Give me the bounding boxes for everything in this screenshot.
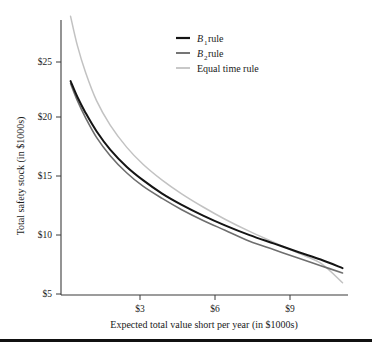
y-tick-label-15: $15 xyxy=(38,171,53,181)
chart-canvas: $5 $10 $15 $20 $25 $3 $6 $9 Expected tot… xyxy=(0,0,372,350)
y-tick-label-20: $20 xyxy=(38,112,53,122)
series-line-b1-rule xyxy=(71,81,343,268)
legend-label-b1-tail: rule xyxy=(208,33,224,44)
chart-legend: B 1 rule B 2 rule Equal time rule xyxy=(176,33,259,74)
bottom-divider-rule xyxy=(0,339,372,342)
legend-label-b1-main: B xyxy=(197,33,203,44)
x-axis-title: Expected total value short per year (in … xyxy=(110,319,297,331)
legend-label-b2-tail: rule xyxy=(208,48,224,59)
x-tick-label-3: $3 xyxy=(135,304,145,314)
y-tick-label-5: $5 xyxy=(43,289,53,299)
y-tick-label-25: $25 xyxy=(38,57,53,67)
chart-figure: $5 $10 $15 $20 $25 $3 $6 $9 Expected tot… xyxy=(0,0,372,350)
x-tick-label-9: $9 xyxy=(285,304,295,314)
x-tick-label-6: $6 xyxy=(210,304,220,314)
y-axis-title: Total safety stock (in $1000s) xyxy=(15,117,27,236)
y-tick-label-10: $10 xyxy=(38,230,53,240)
series-line-b2-rule xyxy=(71,84,343,273)
legend-label-b2-main: B xyxy=(197,48,203,59)
legend-label-equal-time-rule: Equal time rule xyxy=(197,63,259,74)
